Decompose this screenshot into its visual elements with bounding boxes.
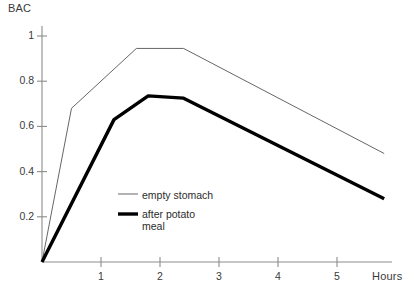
y-tick-label: 0.4	[4, 165, 34, 177]
series-line-after-potato-meal	[42, 96, 384, 262]
data-series-lines	[42, 48, 384, 262]
y-tick-label: 0.2	[4, 210, 34, 222]
series-line-empty-stomach	[42, 48, 384, 262]
x-tick-label: 2	[150, 270, 170, 282]
y-tick-label: 1	[4, 29, 34, 41]
x-tick-label: 4	[268, 270, 288, 282]
y-tick-label: 0.8	[4, 74, 34, 86]
x-tick-label: 1	[91, 270, 111, 282]
y-tick-label: 0.6	[4, 119, 34, 131]
x-tick-label: 3	[209, 270, 229, 282]
bac-chart: BAC Hours 0.20.40.60.81 12345 empty stom…	[0, 0, 411, 291]
chart-plot-area	[0, 0, 411, 291]
y-axis-title: BAC	[8, 2, 31, 14]
legend-label-after-potato-meal: after potato meal	[142, 208, 195, 232]
x-axis-title: Hours	[372, 270, 402, 282]
x-tick-label: 5	[327, 270, 347, 282]
legend-label-empty-stomach: empty stomach	[142, 189, 213, 201]
legend-swatches	[118, 194, 138, 214]
